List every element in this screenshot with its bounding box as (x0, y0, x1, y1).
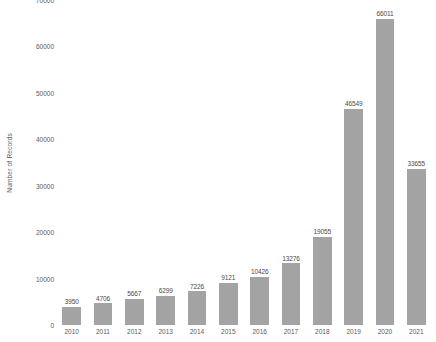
bar[interactable] (62, 307, 81, 325)
bar[interactable] (188, 291, 207, 325)
x-axis-tick: 2017 (275, 328, 306, 335)
bar-value-label: 3950 (65, 298, 79, 305)
y-axis-tick: 0 (50, 322, 54, 329)
bar[interactable] (282, 263, 301, 325)
bar-group: 4706 (94, 0, 113, 325)
bar-group: 46549 (344, 0, 363, 325)
bar-group: 9121 (219, 0, 238, 325)
x-axis-tick: 2020 (369, 328, 400, 335)
bar-group: 19055 (313, 0, 332, 325)
x-axis-tick: 2011 (87, 328, 118, 335)
x-axis-tick: 2015 (213, 328, 244, 335)
bar-group: 66011 (376, 0, 395, 325)
y-axis-tick: 70000 (36, 0, 54, 4)
y-axis-tick: 40000 (36, 136, 54, 143)
x-axis-tick: 2013 (150, 328, 181, 335)
bar-group: 7226 (188, 0, 207, 325)
y-axis-tick-labels: 010000200003000040000500006000070000 (16, 0, 56, 325)
bar[interactable] (156, 296, 175, 325)
x-axis-tick: 2016 (244, 328, 275, 335)
plot-area: 3950470656676299722691211042613276190554… (56, 0, 432, 325)
bar-value-label: 13276 (282, 255, 300, 262)
bar-value-label: 9121 (221, 274, 235, 281)
bar[interactable] (313, 237, 332, 325)
bar[interactable] (376, 19, 395, 325)
bar-chart: Number of Records 0100002000030000400005… (0, 0, 436, 342)
bar-value-label: 33655 (408, 160, 426, 167)
bar[interactable] (219, 283, 238, 325)
bar-value-label: 46549 (345, 100, 363, 107)
y-axis-tick: 20000 (36, 229, 54, 236)
y-axis-tick: 50000 (36, 89, 54, 96)
bar-value-label: 5667 (127, 290, 141, 297)
bar-group: 3950 (62, 0, 81, 325)
bar-value-label: 10426 (251, 268, 269, 275)
x-axis-tick: 2021 (401, 328, 432, 335)
bar[interactable] (125, 299, 144, 325)
bar[interactable] (94, 303, 113, 325)
x-axis-tick: 2018 (307, 328, 338, 335)
y-axis-title-label: Number of Records (6, 133, 13, 193)
bar-value-label: 7226 (190, 283, 204, 290)
bar[interactable] (250, 277, 269, 325)
bar-group: 13276 (282, 0, 301, 325)
bar-group: 6299 (156, 0, 175, 325)
y-axis-title: Number of Records (2, 0, 16, 325)
x-axis-tick: 2019 (338, 328, 369, 335)
bar-value-label: 19055 (314, 228, 332, 235)
bar-value-label: 6299 (159, 287, 173, 294)
y-axis-tick: 30000 (36, 182, 54, 189)
bar[interactable] (407, 169, 426, 325)
x-axis-tick: 2014 (181, 328, 212, 335)
bar-group: 5667 (125, 0, 144, 325)
x-axis-tick: 2010 (56, 328, 87, 335)
x-axis-tick: 2012 (119, 328, 150, 335)
y-axis-tick: 10000 (36, 275, 54, 282)
bar-group: 10426 (250, 0, 269, 325)
bar[interactable] (344, 109, 363, 325)
bar-value-label: 66011 (376, 10, 393, 17)
bar-group: 33655 (407, 0, 426, 325)
bar-value-label: 4706 (96, 295, 110, 302)
y-axis-tick: 60000 (36, 43, 54, 50)
x-axis-tick-labels: 2010201120122013201420152016201720182019… (56, 325, 432, 342)
